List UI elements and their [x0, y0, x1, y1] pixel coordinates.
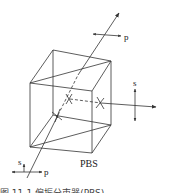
input-s-label: s: [18, 157, 22, 167]
transmitted-p-label: p: [124, 32, 129, 42]
cube-right-face: [92, 61, 111, 153]
transmitted-polarization: [93, 34, 121, 36]
pbs-diagram: s p p s PBS 图 11-1 偏振分束器(PBS): [0, 0, 169, 193]
beamsplitter-diagonal: [30, 125, 111, 147]
input-p-label: p: [44, 167, 49, 177]
input-polarization: [12, 164, 42, 172]
reflected-s-label: s: [133, 78, 137, 88]
cube-front-face: [30, 83, 92, 153]
input-beam: [27, 13, 119, 178]
figure-caption: 图 11-1 偏振分束器(PBS): [0, 187, 104, 193]
pbs-label: PBS: [80, 158, 98, 169]
cube-hidden-edge: [30, 115, 53, 147]
